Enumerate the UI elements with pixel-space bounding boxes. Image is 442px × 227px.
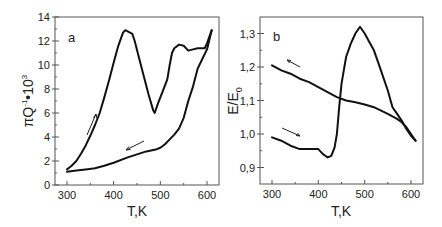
panel-a-y-axis-title-sup2: 3 (20, 74, 29, 79)
panel-a-y-axis-title-main: πQ (20, 107, 36, 128)
x-tick-label: 400 (309, 188, 327, 200)
x-tick-label: 300 (263, 188, 281, 200)
y-tick-label: 14 (38, 11, 50, 23)
panel-a-chart: 02468101214 300400500600 a T,K πQ-1•103 (20, 11, 219, 219)
panel-a-y-axis-title-mid: •10 (20, 79, 36, 100)
panel-b-heating-arrow-icon (282, 128, 300, 136)
x-tick-label: 600 (198, 189, 216, 201)
figure: 02468101214 300400500600 a T,K πQ-1•103 … (0, 0, 442, 227)
x-tick-label: 300 (58, 189, 76, 201)
panel-a-frame (55, 17, 219, 185)
panel-b-x-ticks: 300400500600 (263, 180, 420, 200)
y-tick-label: 1,3 (240, 28, 255, 40)
panel-b-y-axis-title-main: E/E (225, 92, 241, 115)
panel-a-cooling-arrow-icon (126, 141, 144, 150)
panel-a-cooling-curve (67, 30, 212, 172)
panel-a-x-axis-title: T,K (127, 203, 148, 219)
panel-b-chart: 0,91,01,11,21,3 300400500600 b T,K E/E0 (225, 17, 423, 219)
panel-a-y-axis-title: πQ-1•103 (20, 74, 36, 127)
x-tick-label: 600 (402, 188, 420, 200)
y-tick-label: 0,9 (240, 162, 255, 174)
y-tick-label: 12 (38, 35, 50, 47)
x-tick-label: 400 (104, 189, 122, 201)
y-tick-label: 1,0 (240, 128, 255, 140)
x-tick-label: 500 (355, 188, 373, 200)
panel-b-x-axis-title: T,K (331, 203, 352, 219)
panel-b-frame (260, 17, 423, 184)
x-tick-label: 500 (151, 189, 169, 201)
panel-a-x-ticks: 300400500600 (58, 181, 216, 201)
y-tick-label: 2 (44, 155, 50, 167)
y-tick-label: 6 (44, 107, 50, 119)
panel-a-y-ticks: 02468101214 (38, 11, 59, 191)
y-tick-label: 10 (38, 59, 50, 71)
y-tick-label: 1,1 (240, 95, 255, 107)
y-tick-label: 8 (44, 83, 50, 95)
y-tick-label: 0 (44, 179, 50, 191)
panel-b-cooling-arrow-icon (287, 60, 300, 67)
panel-a-heating-curve (67, 30, 212, 169)
panel-b-cooling-curve (272, 65, 416, 140)
panel-a-letter: a (68, 30, 76, 45)
panel-b-heating-curve (272, 27, 416, 158)
y-tick-label: 4 (44, 131, 50, 143)
panel-b-letter: b (273, 29, 280, 44)
y-tick-label: 1,2 (240, 61, 255, 73)
panel-b-y-axis-title-sub: 0 (234, 87, 244, 92)
